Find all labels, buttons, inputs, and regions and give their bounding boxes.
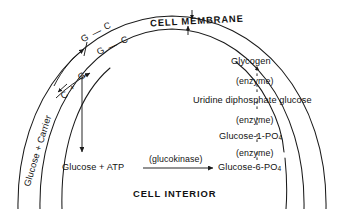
glucose-6-phosphate-product: Glucose-6-PO4 [218, 163, 281, 173]
glucose-1-phosphate-text: Glucose-1-PO [219, 131, 278, 141]
cell-interior-label: CELL INTERIOR [133, 189, 216, 198]
membrane-outer-arc [18, 16, 326, 209]
glucose-1-phosphate-subscript: 4 [278, 134, 282, 141]
glucokinase-enzyme-label: (glucokinase) [149, 155, 203, 164]
pathway-step-enzyme-1: (enzyme) [236, 77, 273, 86]
cell-membrane-glucose-transport-diagram: CELL MEMBRANE CELL INTERIOR Glucose + Ca… [0, 0, 344, 209]
interior-arc-left [62, 68, 110, 209]
pathway-step-glycogen: Glycogen [231, 57, 271, 66]
pathway-step-enzyme-3: (enzyme) [236, 149, 273, 158]
interior-arc-right-lower [285, 158, 287, 209]
glucose-atp-reactants: Glucose + ATP [62, 163, 124, 172]
pathway-step-udp-glucose: Uridine diphosphate glucose [193, 96, 312, 105]
glucose-6-phosphate-product-text: Glucose-6-PO [218, 162, 277, 172]
glucose-6-phosphate-product-subscript: 4 [277, 165, 281, 172]
pathway-step-enzyme-2: (enzyme) [236, 116, 273, 125]
pathway-step-glucose-1-phosphate: Glucose-1-PO4 [219, 132, 282, 142]
complex-link-line [84, 42, 87, 56]
